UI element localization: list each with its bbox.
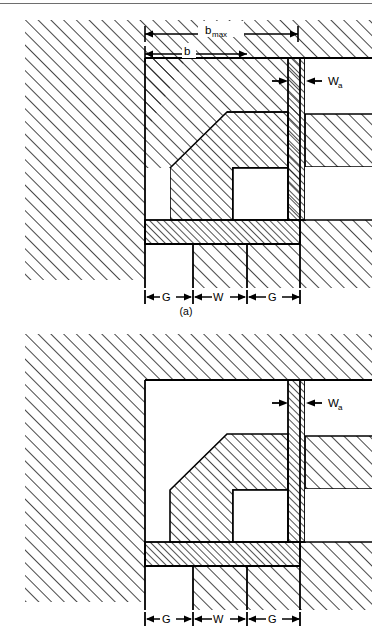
lower-right-hatch bbox=[300, 220, 372, 288]
wa-column bbox=[288, 58, 305, 220]
lower-cells bbox=[145, 244, 300, 288]
g-left-label: G bbox=[162, 613, 171, 625]
square-notch bbox=[233, 490, 288, 542]
lower-right-hatch bbox=[300, 542, 372, 610]
g-left-label: G bbox=[162, 291, 171, 303]
top-hatch-band bbox=[145, 20, 372, 58]
page-top-rule bbox=[0, 3, 372, 4]
b-label: b bbox=[184, 45, 190, 57]
metal-band bbox=[145, 220, 300, 244]
dimension-bottom-row: G W G bbox=[145, 611, 300, 626]
figure-b: W a G W bbox=[0, 322, 372, 637]
figure-a: b max b W a bbox=[0, 8, 372, 318]
figure-a-svg: b max b W a bbox=[0, 8, 372, 318]
lower-cells bbox=[145, 566, 300, 610]
wa-label-sub: a bbox=[338, 403, 343, 412]
right-white-lower bbox=[305, 167, 372, 220]
w-label: W bbox=[213, 291, 224, 303]
substrate-hatch-left bbox=[25, 334, 145, 602]
figure-b-svg: W a G W bbox=[0, 322, 372, 637]
substrate-hatch-left bbox=[25, 20, 145, 280]
wa-column bbox=[288, 380, 305, 542]
figure-a-caption: (a) bbox=[180, 305, 193, 317]
bmax-label-sub: max bbox=[212, 30, 227, 39]
g-right-label: G bbox=[268, 291, 277, 303]
top-hatch-band bbox=[145, 334, 372, 380]
right-white-lower bbox=[305, 489, 372, 542]
diagram-page: b max b W a bbox=[0, 0, 372, 637]
square-notch bbox=[233, 168, 288, 220]
dimension-bottom-row: G W G bbox=[145, 289, 300, 304]
metal-band bbox=[145, 542, 300, 566]
g-right-label: G bbox=[268, 613, 277, 625]
w-label: W bbox=[213, 613, 224, 625]
wa-label-sub: a bbox=[338, 81, 343, 90]
bmax-label-base: b bbox=[205, 24, 211, 36]
